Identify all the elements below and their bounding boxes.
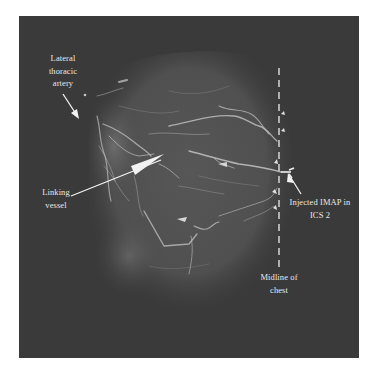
- label-injected-imap: Injected IMAP in ICS 2: [280, 196, 359, 221]
- arrow-lateral-thoracic: [63, 94, 79, 119]
- label-midline-of-chest: Midline of chest: [249, 271, 309, 296]
- label-lateral-thoracic-artery: Lateral thoracic artery: [33, 52, 93, 90]
- label-linking-vessel: Linking vessel: [31, 186, 81, 211]
- angiogram-image-panel: Lateral thoracic artery Linking vessel I…: [19, 16, 359, 358]
